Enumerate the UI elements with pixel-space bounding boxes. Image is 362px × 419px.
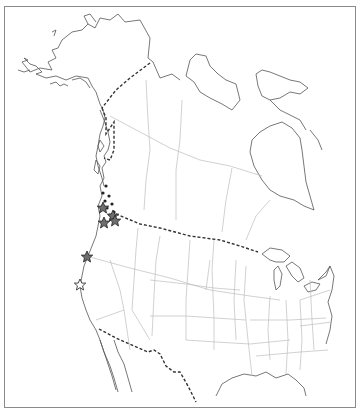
great-lakes (262, 248, 330, 292)
baffin-area (270, 100, 322, 150)
aleutian-islands (18, 70, 90, 88)
alaska-coastline (22, 14, 180, 186)
us-mexico-border (99, 329, 196, 402)
arctic-islands (186, 54, 308, 110)
hudson-bay (250, 122, 314, 210)
state-province-borders (86, 80, 332, 376)
alaska-canada-border (102, 63, 150, 108)
gulf-coast (216, 372, 306, 396)
east-coast (326, 266, 334, 344)
baja-california (100, 340, 132, 392)
north-america-map (0, 0, 362, 419)
bc-coastline (80, 110, 116, 390)
